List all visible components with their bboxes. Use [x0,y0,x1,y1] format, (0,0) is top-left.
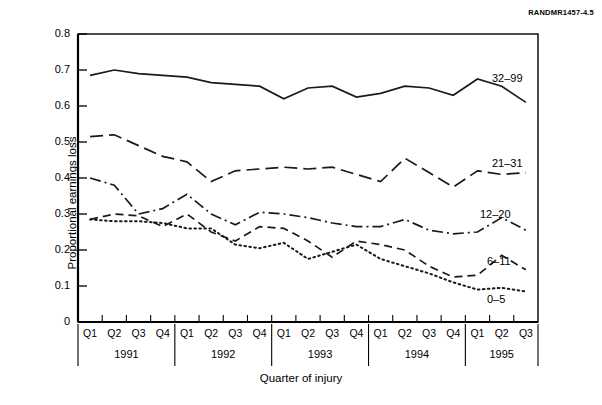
series-line-32-99 [90,70,526,102]
x-year-label: 1995 [472,348,532,360]
figure-container: RANDMR1457-4.5 Proportional earnings los… [0,0,602,405]
y-tick-label: 0.2 [22,243,70,255]
y-tick-label: 0.8 [22,27,70,39]
x-year-label: 1991 [96,348,156,360]
series-line-21-31 [90,135,526,187]
line-chart-plot [0,0,602,405]
y-tick-label: 0.1 [22,279,70,291]
y-tick-label: 0.6 [22,99,70,111]
series-line-0-5 [90,219,526,291]
y-tick-label: 0.5 [22,135,70,147]
x-quarter-label: Q3 [510,327,542,339]
series-line-12-20 [90,178,526,234]
series-label-21-31: 21–31 [492,157,523,169]
series-label-32-99: 32–99 [492,72,523,84]
series-label-0-5: 0–5 [487,293,505,305]
y-tick-label: 0 [22,315,70,327]
y-tick-label: 0.4 [22,171,70,183]
x-year-label: 1992 [193,348,253,360]
x-year-label: 1994 [387,348,447,360]
series-label-12-20: 12–20 [480,208,511,220]
y-tick-label: 0.7 [22,63,70,75]
x-year-label: 1993 [290,348,350,360]
y-tick-label: 0.3 [22,207,70,219]
series-label-6-11: 6–11 [487,255,511,267]
